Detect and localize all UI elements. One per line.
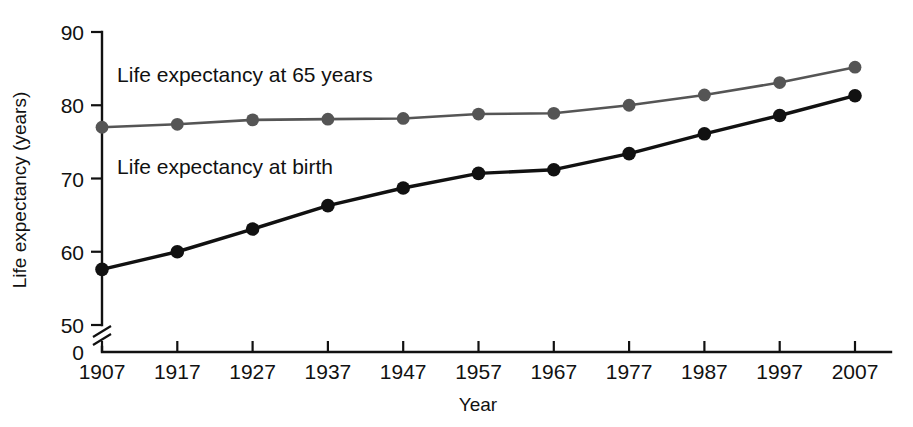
- series-label-1: Life expectancy at 65 years: [117, 63, 373, 86]
- data-point-marker: [397, 112, 410, 125]
- series-label-2: Life expectancy at birth: [117, 155, 333, 178]
- data-point-marker: [396, 181, 410, 195]
- y-tick-label: 70: [61, 168, 84, 191]
- data-point-marker: [849, 61, 862, 74]
- data-point-marker: [246, 222, 260, 236]
- data-point-marker: [171, 245, 185, 259]
- data-point-marker: [321, 199, 335, 213]
- y-tick-label: 80: [61, 94, 84, 117]
- chart-canvas: 50607080900 1907191719271937194719571967…: [0, 0, 913, 427]
- y-axis-ticks: 50607080900: [61, 21, 102, 364]
- data-point-marker: [773, 76, 786, 89]
- x-tick-label: 1997: [756, 360, 803, 383]
- life-expectancy-line-chart: 50607080900 1907191719271937194719571967…: [0, 0, 913, 427]
- data-point-marker: [698, 127, 712, 141]
- x-tick-label: 2007: [832, 360, 879, 383]
- x-tick-label: 1987: [681, 360, 728, 383]
- x-tick-label: 1907: [79, 360, 126, 383]
- data-point-marker: [472, 167, 486, 181]
- y-tick-label: 50: [61, 314, 84, 337]
- data-point-marker: [848, 89, 862, 103]
- data-point-marker: [773, 109, 787, 123]
- data-point-marker: [246, 114, 259, 127]
- data-point-marker: [472, 108, 485, 121]
- data-point-marker: [171, 118, 184, 131]
- x-tick-label: 1957: [455, 360, 502, 383]
- data-point-marker: [547, 163, 561, 177]
- data-point-marker: [95, 263, 109, 277]
- x-axis-ticks: 1907191719271937194719571967197719871997…: [79, 341, 879, 383]
- x-tick-label: 1967: [530, 360, 577, 383]
- x-tick-label: 1927: [229, 360, 276, 383]
- data-point-marker: [622, 147, 636, 161]
- x-tick-label: 1937: [305, 360, 352, 383]
- data-point-marker: [96, 121, 109, 134]
- y-axis-title: Life expectancy (years): [9, 92, 30, 288]
- x-axis-line: [102, 347, 891, 352]
- x-tick-label: 1947: [380, 360, 427, 383]
- data-point-marker: [623, 99, 636, 112]
- x-axis-title: Year: [459, 394, 498, 415]
- y-tick-label: 60: [61, 241, 84, 264]
- y-tick-label: 90: [61, 21, 84, 44]
- x-tick-label: 1917: [154, 360, 201, 383]
- data-point-marker: [322, 113, 335, 126]
- x-tick-label: 1977: [606, 360, 653, 383]
- data-point-marker: [547, 107, 560, 120]
- data-point-marker: [698, 89, 711, 102]
